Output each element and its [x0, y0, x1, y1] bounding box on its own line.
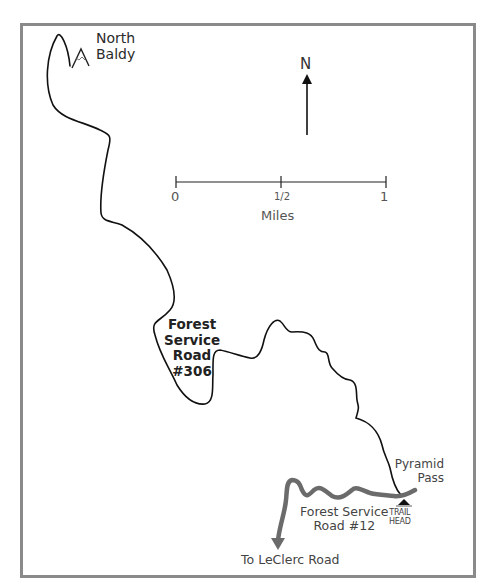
- road-306-label: Forest Service Road #306: [164, 317, 220, 379]
- peak-label: North Baldy: [96, 30, 135, 62]
- pass-line1: Pyramid: [384, 458, 444, 472]
- leclerc-road-label: To LeClerc Road: [241, 553, 340, 567]
- scale-unit-label: Miles: [261, 209, 294, 224]
- north-label: N: [300, 56, 311, 73]
- pyramid-pass-label: Pyramid Pass: [384, 458, 444, 486]
- north-arrow-icon: [302, 74, 312, 135]
- scale-tick-half: 1/2: [274, 191, 290, 203]
- scale-tick-0: 0: [171, 190, 179, 205]
- road-306-line4: #306: [164, 364, 220, 380]
- mountain-peak-icon: [72, 49, 89, 68]
- map-canvas: [0, 0, 489, 588]
- scale-tick-1: 1: [380, 190, 388, 205]
- pass-line2: Pass: [384, 472, 444, 486]
- road-12-line1: Forest Service: [300, 505, 389, 519]
- trailhead-label: TRAIL HEAD: [389, 508, 411, 526]
- trailhead-line1: TRAIL: [389, 508, 411, 517]
- trailhead-line2: HEAD: [389, 517, 411, 526]
- road-306-line2: Service: [164, 333, 220, 349]
- trail-path-306: [47, 35, 401, 495]
- road-306-line3: Road: [164, 348, 220, 364]
- peak-label-line1: North: [96, 30, 135, 46]
- arrow-down-icon: [271, 538, 285, 550]
- road-306-line1: Forest: [164, 317, 220, 333]
- trailhead-triangle-icon: [398, 499, 410, 505]
- scale-bar: [176, 176, 386, 188]
- peak-label-line2: Baldy: [96, 46, 135, 62]
- road-12-label: Forest Service Road #12: [300, 505, 389, 534]
- road-12-line2: Road #12: [300, 519, 389, 533]
